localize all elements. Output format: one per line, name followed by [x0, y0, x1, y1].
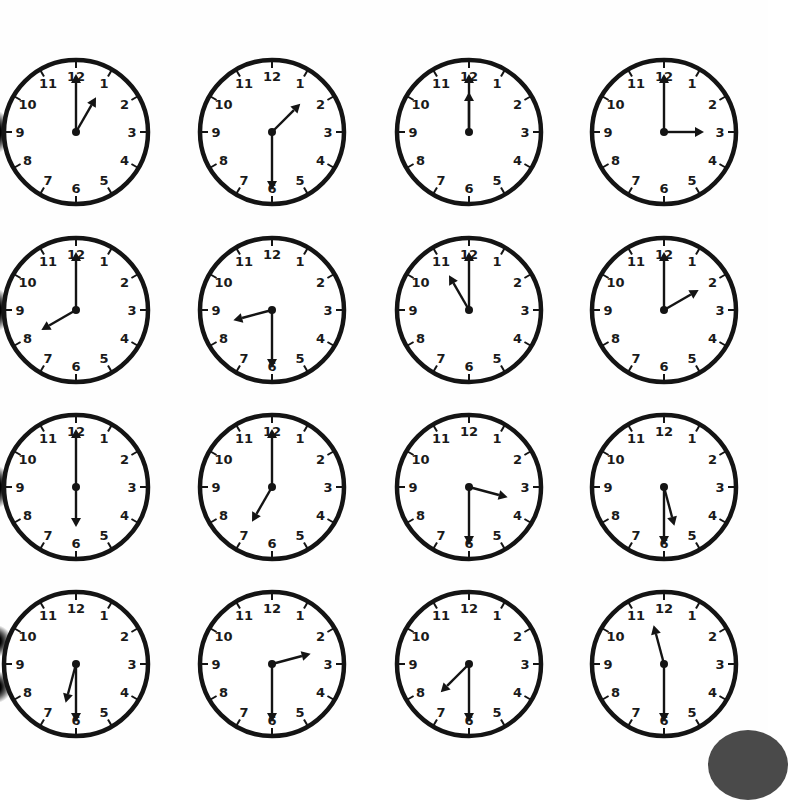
- clock-number: 3: [715, 125, 724, 140]
- clock-number: 3: [520, 480, 529, 495]
- clock-number: 1: [99, 608, 108, 623]
- clock-face: 121234567891011: [196, 234, 348, 386]
- clock-number: 1: [687, 254, 696, 269]
- clock-number: 11: [235, 254, 253, 269]
- clock-icon: 121234567891011: [588, 56, 740, 208]
- clock-number: 4: [316, 508, 325, 523]
- clock-number: 9: [211, 480, 220, 495]
- clock-face: 121234567891011: [588, 234, 740, 386]
- clock-number: 7: [43, 351, 52, 366]
- clock-number: 2: [513, 452, 522, 467]
- clock-number: 3: [715, 303, 724, 318]
- clock-number: 7: [631, 173, 640, 188]
- clock-number: 11: [39, 254, 57, 269]
- clock-number: 1: [295, 431, 304, 446]
- clock-icon: 121234567891011: [196, 588, 348, 740]
- clock-number: 4: [708, 331, 717, 346]
- clock-number: 6: [267, 536, 276, 551]
- clock-icon: 121234567891011: [588, 411, 740, 563]
- clock-number: 10: [214, 97, 232, 112]
- clock-face: 121234567891011: [196, 56, 348, 208]
- clock-number: 2: [316, 275, 325, 290]
- clock-number: 11: [627, 254, 645, 269]
- clock-number: 3: [520, 125, 529, 140]
- clock-number: 11: [432, 431, 450, 446]
- clock-number: 11: [627, 431, 645, 446]
- clock-number: 10: [411, 97, 429, 112]
- clock-number: 10: [18, 97, 36, 112]
- clock-number: 12: [263, 247, 281, 262]
- clock-icon: 121234567891011: [0, 56, 152, 208]
- clock-number: 11: [39, 608, 57, 623]
- clock-number: 10: [18, 452, 36, 467]
- clock-number: 9: [603, 657, 612, 672]
- clock-number: 4: [513, 331, 522, 346]
- clock-number: 11: [235, 431, 253, 446]
- clock-number: 6: [464, 359, 473, 374]
- clock-number: 10: [606, 97, 624, 112]
- clock-number: 8: [219, 685, 228, 700]
- clock-number: 10: [411, 629, 429, 644]
- clock-number: 5: [687, 705, 696, 720]
- clock-number: 2: [120, 452, 129, 467]
- clock-number: 5: [492, 173, 501, 188]
- clock-number: 8: [416, 685, 425, 700]
- clock-face: 121234567891011: [393, 234, 545, 386]
- clock-number: 2: [513, 275, 522, 290]
- clock-number: 12: [263, 601, 281, 616]
- clock-number: 1: [492, 254, 501, 269]
- clock-number: 4: [120, 685, 129, 700]
- clock-face: 121234567891011: [196, 411, 348, 563]
- clock-number: 1: [295, 254, 304, 269]
- clock-icon: 121234567891011: [393, 234, 545, 386]
- clock-number: 10: [214, 629, 232, 644]
- clock-number: 11: [432, 608, 450, 623]
- clock-icon: 121234567891011: [393, 411, 545, 563]
- clock-number: 2: [708, 97, 717, 112]
- clock-number: 1: [99, 76, 108, 91]
- clock-number: 9: [408, 657, 417, 672]
- clock-number: 6: [464, 181, 473, 196]
- clock-number: 5: [492, 705, 501, 720]
- clock-number: 8: [611, 685, 620, 700]
- clock-number: 9: [15, 303, 24, 318]
- clock-number: 6: [71, 536, 80, 551]
- clock-number: 12: [460, 424, 478, 439]
- clock-number: 10: [214, 275, 232, 290]
- clock-number: 3: [520, 657, 529, 672]
- clock-number: 7: [239, 705, 248, 720]
- clock-number: 1: [492, 76, 501, 91]
- clock-number: 8: [416, 331, 425, 346]
- page-corner-shape: [708, 730, 788, 800]
- clock-number: 2: [708, 452, 717, 467]
- clock-number: 4: [513, 153, 522, 168]
- clock-number: 1: [492, 608, 501, 623]
- clock-icon: 121234567891011: [196, 56, 348, 208]
- clock-icon: 121234567891011: [393, 588, 545, 740]
- clock-number: 11: [627, 76, 645, 91]
- clock-number: 6: [659, 181, 668, 196]
- clock-number: 7: [239, 173, 248, 188]
- clock-number: 9: [603, 480, 612, 495]
- clock-number: 11: [235, 608, 253, 623]
- clock-icon: 121234567891011: [196, 411, 348, 563]
- clock-number: 8: [219, 331, 228, 346]
- clock-number: 9: [15, 480, 24, 495]
- clock-face: 121234567891011: [0, 411, 152, 563]
- clock-number: 8: [611, 508, 620, 523]
- clock-number: 10: [606, 452, 624, 467]
- clock-number: 9: [408, 303, 417, 318]
- clock-face: 121234567891011: [393, 588, 545, 740]
- clock-number: 2: [708, 275, 717, 290]
- clock-number: 5: [295, 351, 304, 366]
- clock-face: 121234567891011: [196, 588, 348, 740]
- clock-number: 5: [99, 351, 108, 366]
- clock-number: 8: [23, 685, 32, 700]
- clock-number: 10: [411, 452, 429, 467]
- clock-number: 10: [411, 275, 429, 290]
- clock-number: 4: [513, 508, 522, 523]
- clock-number: 11: [627, 608, 645, 623]
- clock-number: 9: [211, 125, 220, 140]
- clock-number: 4: [513, 685, 522, 700]
